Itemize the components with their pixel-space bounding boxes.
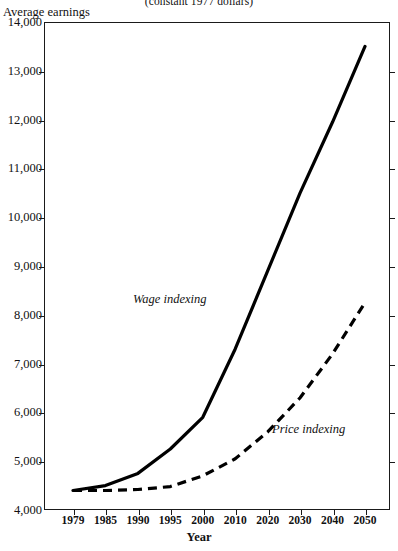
x-tick-label: 1995 [159, 514, 182, 526]
x-tick-label: 1990 [126, 514, 149, 526]
price-indexing-label: Price indexing [272, 422, 345, 437]
series-lines [0, 0, 398, 551]
x-tick-label: 2040 [321, 514, 344, 526]
x-axis-title: Year [0, 530, 398, 545]
x-tick-label: 2030 [289, 514, 312, 526]
x-tick-label: 1985 [94, 514, 117, 526]
wage-indexing-label: Wage indexing [133, 292, 206, 307]
x-tick-label: 2000 [191, 514, 214, 526]
price-indexing-line [73, 303, 365, 491]
chart-container: (constant 1977 dollars) Average earnings… [0, 0, 398, 551]
x-tick-label: 2010 [224, 514, 247, 526]
x-tick-label: 2020 [256, 514, 279, 526]
x-tick-label: 2050 [354, 514, 377, 526]
x-tick-label: 1979 [62, 514, 85, 526]
